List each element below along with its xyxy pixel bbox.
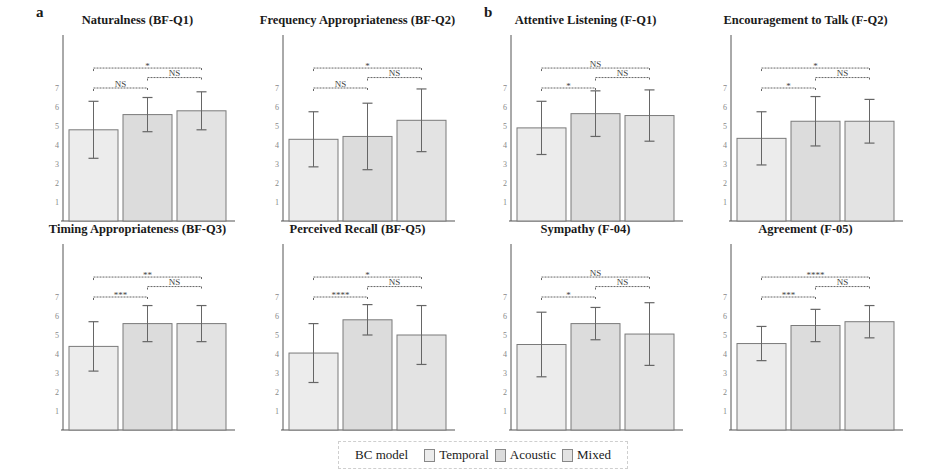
significance-bracket: NS (314, 79, 368, 92)
y-tick-label: 7 (723, 84, 727, 93)
significance-label: NS (837, 277, 849, 287)
bar-plot: 1234567*NSNS (478, 13, 693, 223)
y-tick-label: 5 (503, 122, 507, 131)
significance-label: NS (389, 68, 401, 78)
significance-label: NS (169, 277, 181, 287)
significance-bracket: * (314, 270, 422, 280)
y-tick-label: 4 (503, 141, 507, 150)
bar-plot: 1234567****NS* (250, 222, 465, 432)
y-tick-label: 2 (503, 179, 507, 188)
significance-bracket: *** (762, 290, 816, 300)
y-tick-label: 2 (723, 388, 727, 397)
y-tick-label: 5 (55, 331, 59, 340)
y-tick-label: 2 (723, 179, 727, 188)
significance-bracket: * (314, 61, 422, 71)
chart-agreement: Agreement (F-05) 1234567***NS**** (698, 222, 913, 432)
y-tick-label: 6 (723, 312, 727, 321)
significance-label: NS (590, 268, 602, 278)
significance-label: * (566, 290, 571, 300)
y-tick-label: 7 (503, 293, 507, 302)
significance-label: * (365, 61, 370, 71)
y-tick-label: 7 (723, 293, 727, 302)
significance-label: * (145, 61, 150, 71)
swatch-icon (562, 449, 573, 462)
significance-bracket: NS (596, 277, 650, 290)
y-tick-label: 3 (55, 160, 59, 169)
bar-acoustic (343, 320, 392, 430)
bar-plot: 1234567***NS** (30, 222, 245, 432)
y-tick-label: 1 (723, 407, 727, 416)
significance-bracket: NS (368, 277, 422, 290)
significance-label: ** (143, 270, 153, 280)
chart-sympathy: Sympathy (F-04) 1234567*NSNS (478, 222, 693, 432)
y-tick-label: 7 (55, 84, 59, 93)
significance-bracket: ** (94, 270, 202, 280)
y-tick-label: 3 (503, 160, 507, 169)
significance-label: NS (617, 277, 629, 287)
y-tick-label: 3 (275, 160, 279, 169)
y-tick-label: 2 (275, 388, 279, 397)
significance-label: *** (114, 290, 128, 300)
bar-plot: 1234567***NS**** (698, 222, 913, 432)
y-tick-label: 4 (275, 350, 279, 359)
y-tick-label: 2 (55, 179, 59, 188)
chart-encouragement-to-talk: Encouragement to Talk (F-Q2) 1234567*NS* (698, 13, 913, 223)
chart-frequency-appropriateness: Frequency Appropriateness (BF-Q2) 123456… (250, 13, 465, 223)
significance-bracket: **** (314, 290, 368, 300)
y-tick-label: 5 (723, 122, 727, 131)
significance-bracket: * (762, 81, 816, 91)
chart-attentive-listening: Attentive Listening (F-Q1) 1234567*NSNS (478, 13, 693, 223)
significance-bracket: NS (596, 68, 650, 81)
significance-bracket: NS (94, 79, 148, 92)
y-tick-label: 3 (275, 369, 279, 378)
y-tick-label: 4 (723, 350, 727, 359)
y-tick-label: 6 (503, 103, 507, 112)
y-tick-label: 3 (55, 369, 59, 378)
y-tick-label: 7 (275, 84, 279, 93)
y-tick-label: 1 (723, 198, 727, 207)
significance-bracket: NS (148, 277, 202, 290)
y-tick-label: 4 (55, 350, 59, 359)
bar-plot: 1234567*NSNS (478, 222, 693, 432)
significance-bracket: **** (762, 270, 870, 280)
significance-label: * (786, 81, 791, 91)
y-tick-label: 4 (275, 141, 279, 150)
y-tick-label: 6 (275, 103, 279, 112)
legend-item-acoustic: Acoustic (495, 447, 556, 463)
y-tick-label: 1 (55, 198, 59, 207)
y-tick-label: 6 (55, 312, 59, 321)
y-tick-label: 1 (503, 198, 507, 207)
significance-bracket: NS (816, 68, 870, 81)
y-tick-label: 3 (503, 369, 507, 378)
y-tick-label: 6 (723, 103, 727, 112)
significance-label: NS (590, 59, 602, 69)
significance-bracket: NS (368, 68, 422, 81)
significance-label: NS (617, 68, 629, 78)
significance-bracket: NS (542, 59, 650, 72)
y-tick-label: 2 (275, 179, 279, 188)
y-tick-label: 3 (723, 369, 727, 378)
y-tick-label: 4 (723, 141, 727, 150)
significance-label: NS (169, 68, 181, 78)
chart-timing-appropriateness: Timing Appropriateness (BF-Q3) 1234567**… (30, 222, 245, 432)
significance-label: NS (335, 79, 347, 89)
significance-label: NS (115, 79, 127, 89)
y-tick-label: 1 (275, 198, 279, 207)
legend: BC model Temporal Acoustic Mixed (338, 441, 628, 469)
y-tick-label: 7 (503, 84, 507, 93)
significance-label: * (365, 270, 370, 280)
significance-bracket: * (762, 61, 870, 71)
significance-label: **** (332, 290, 351, 300)
y-tick-label: 6 (55, 103, 59, 112)
y-tick-label: 7 (275, 293, 279, 302)
chart-perceived-recall: Perceived Recall (BF-Q5) 1234567****NS* (250, 222, 465, 432)
y-tick-label: 1 (503, 407, 507, 416)
significance-bracket: *** (94, 290, 148, 300)
swatch-icon (424, 449, 435, 462)
y-tick-label: 4 (55, 141, 59, 150)
y-tick-label: 7 (55, 293, 59, 302)
y-tick-label: 6 (275, 312, 279, 321)
legend-title: BC model (355, 447, 408, 463)
bar-plot: 1234567NSNS* (250, 13, 465, 223)
y-tick-label: 6 (503, 312, 507, 321)
